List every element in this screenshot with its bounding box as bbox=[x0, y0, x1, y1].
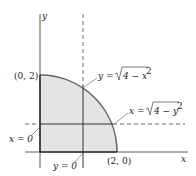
shaded-region bbox=[40, 75, 117, 152]
line-y0-label: y = 0 bbox=[52, 161, 77, 171]
curve-upper-lhs: y = bbox=[97, 71, 114, 81]
leader-x0 bbox=[32, 127, 40, 135]
curve-right-lhs: x = bbox=[129, 106, 144, 116]
curve-right-exponent: 2 bbox=[177, 101, 183, 111]
curve-upper-exponent: 2 bbox=[146, 66, 152, 76]
x-axis-label: x bbox=[181, 154, 186, 164]
point-right-label: (2, 0) bbox=[107, 156, 131, 166]
line-x0-label: x = 0 bbox=[9, 134, 33, 144]
leader-right bbox=[114, 113, 128, 124]
point-top-label: (0, 2) bbox=[14, 71, 38, 81]
y-axis-label: y bbox=[41, 11, 48, 21]
quarter-disk-diagram: y x (0, 2) (2, 0) y = 4 − x 2 x = 4 − y … bbox=[0, 0, 196, 176]
curve-right-radicand: 4 − y bbox=[153, 106, 179, 116]
leader-upper bbox=[84, 78, 97, 87]
curve-upper-radicand: 4 − x bbox=[122, 71, 147, 81]
